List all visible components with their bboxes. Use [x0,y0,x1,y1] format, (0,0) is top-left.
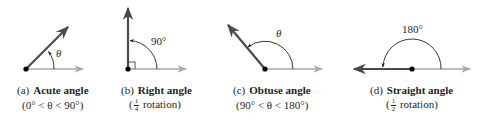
straight-angle-diagram: 180° [354,23,470,72]
subcaption-b: (14 rotation) [129,98,181,113]
caption-a: (a)Acute angle [17,84,89,97]
right-angle-diagram: 90° [125,8,186,72]
caption-tag: (a) [17,84,29,96]
subcaption-d: (12 rotation) [386,98,438,113]
angle-arc [383,39,441,69]
fraction-one-half: 12 [391,98,397,113]
vertex-dot [23,66,28,71]
caption-b: (b)Right angle [121,84,192,97]
acute-angle-diagram: θ [23,27,83,72]
fraction-denominator: 4 [134,106,140,113]
rotation-text: rotation) [140,98,181,110]
obtuse-angle-diagram: θ [228,25,322,72]
vertex-dot [262,66,267,71]
caption-title: Straight angle [387,84,453,96]
caption-title: Obtuse angle [249,84,310,96]
angle-label: 90° [151,35,166,47]
subcaption-c: (90° < θ < 180°) [236,99,308,112]
angle-label: 180° [402,23,423,35]
caption-title: Acute angle [33,84,88,96]
fraction-denominator: 2 [391,106,397,113]
vertex-dot [125,66,130,71]
caption-tag: (d) [370,84,383,96]
caption-tag: (c) [233,84,245,96]
rotation-text: rotation) [397,98,438,110]
paren-open: ( [129,98,133,110]
terminal-side-ray [26,27,68,69]
angle-label: θ [56,47,62,59]
fraction-one-quarter: 14 [134,98,140,113]
terminal-side-ray [228,25,265,69]
angle-range: (0° < θ < 90°) [22,99,83,111]
angle-label: θ [276,27,282,39]
vertex-dot [409,66,414,71]
caption-tag: (b) [121,84,134,96]
subcaption-a: (0° < θ < 90°) [22,99,83,112]
caption-c: (c)Obtuse angle [233,84,311,97]
paren-open: ( [386,98,390,110]
angle-range: (90° < θ < 180°) [236,99,308,111]
caption-d: (d)Straight angle [370,84,453,97]
caption-title: Right angle [138,84,192,96]
angle-arc [49,52,55,70]
